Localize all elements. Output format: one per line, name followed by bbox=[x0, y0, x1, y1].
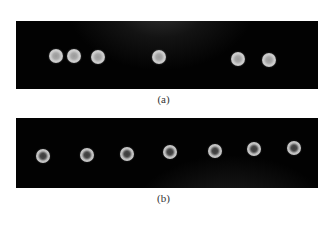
caption-b: (b) bbox=[0, 192, 327, 204]
ring-spot bbox=[36, 149, 50, 163]
spot bbox=[231, 52, 245, 66]
panel-a-photo bbox=[16, 21, 318, 89]
ring-spot bbox=[287, 141, 301, 155]
spot bbox=[67, 49, 81, 63]
ring-spot bbox=[80, 148, 94, 162]
caption-a: (a) bbox=[0, 93, 327, 105]
ring-spot bbox=[120, 147, 134, 161]
panel-b-photo bbox=[16, 118, 318, 188]
spot bbox=[262, 53, 276, 67]
spot bbox=[91, 50, 105, 64]
ring-spot bbox=[247, 142, 261, 156]
spot bbox=[49, 49, 63, 63]
ring-spot bbox=[208, 144, 222, 158]
spot bbox=[152, 50, 166, 64]
ring-spot bbox=[163, 145, 177, 159]
panel-b-glow bbox=[126, 156, 318, 188]
